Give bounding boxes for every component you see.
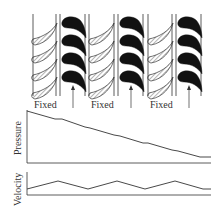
stage-3: Fixed <box>148 14 202 110</box>
turbine-diagram: Fixed Fixed <box>0 0 223 209</box>
velocity-axis-label: Velocity <box>12 173 23 206</box>
fixed-blade-row <box>89 23 114 99</box>
fixed-blade-row <box>148 23 173 99</box>
fixed-blade-row <box>32 23 57 99</box>
stage-label-fixed: Fixed <box>150 99 173 110</box>
arrow-up-icon <box>129 85 133 108</box>
stage-label-fixed: Fixed <box>91 99 114 110</box>
velocity-chart: Velocity <box>12 172 211 206</box>
stage-label-fixed: Fixed <box>34 99 57 110</box>
pressure-line <box>27 111 211 157</box>
arrow-up-icon <box>187 85 191 108</box>
pressure-axis-label: Pressure <box>12 121 23 155</box>
arrow-up-icon <box>71 85 75 108</box>
moving-blade-row <box>62 17 86 92</box>
velocity-line <box>27 181 211 189</box>
stage-1: Fixed <box>32 14 86 110</box>
pressure-chart: Pressure <box>12 110 211 163</box>
stage-2: Fixed <box>89 14 144 110</box>
moving-blade-row <box>120 17 144 92</box>
moving-blade-row <box>178 17 202 92</box>
